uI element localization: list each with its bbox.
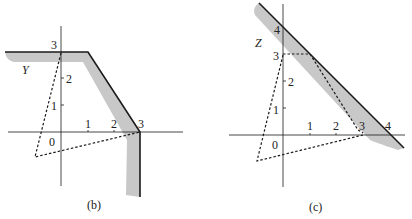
panel-c-x-tick-1: 1 xyxy=(307,119,313,133)
panel-b-caption: (b) xyxy=(87,198,101,212)
panel-c-x-tick-4: 4 xyxy=(385,119,391,133)
panel-b-y-tick-2: 2 xyxy=(66,72,72,86)
panel-b-x-tick-3: 3 xyxy=(138,117,144,131)
panel-c-y-tick-3: 3 xyxy=(273,49,279,63)
panel-b-origin-label: 0 xyxy=(49,135,55,149)
panel-c-x-tick-3: 3 xyxy=(359,119,365,133)
panel-c-dashed-quad xyxy=(283,54,363,133)
panel-c: 4 3 2 1 1 2 3 4 0 Z (c) xyxy=(229,3,405,214)
diagram-canvas: 3 2 1 1 2 3 0 Y (b) 4 3 2 1 1 2 3 4 0 xyxy=(0,0,412,219)
panel-c-y-tick-4: 4 xyxy=(274,23,280,37)
panel-b-x-tick-1: 1 xyxy=(85,117,91,131)
panel-c-boundary-line xyxy=(259,3,404,148)
panel-b-region-label: Y xyxy=(22,63,30,77)
panel-b-y-tick-3: 3 xyxy=(51,38,57,52)
panel-b-x-tick-2: 2 xyxy=(111,117,117,131)
panel-c-caption: (c) xyxy=(309,200,322,214)
panel-b-y-tick-1: 1 xyxy=(51,99,57,113)
panel-c-x-tick-2: 2 xyxy=(333,119,339,133)
panel-c-region-label: Z xyxy=(255,36,262,50)
panel-c-y-tick-1: 1 xyxy=(273,103,279,117)
panel-c-y-tick-2: 2 xyxy=(288,75,294,89)
panel-b: 3 2 1 1 2 3 0 Y (b) xyxy=(5,26,183,212)
panel-c-origin-label: 0 xyxy=(272,138,278,152)
